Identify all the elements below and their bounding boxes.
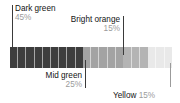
bar-stripe: [123, 47, 131, 68]
callout-percent-bright-orange: 15%: [58, 24, 120, 33]
bar-stripe: [132, 47, 140, 68]
callout-percent-yellow: 15%: [139, 91, 155, 100]
leader-line-yellow: [170, 63, 171, 87]
leader-line-bright-orange: [123, 16, 124, 55]
callout-percent-mid-green: 25%: [37, 80, 82, 89]
bar-segment-yellow[interactable]: [148, 47, 172, 68]
bar-stripe: [10, 47, 18, 68]
callout-dark-green: Dark green 45%: [15, 4, 56, 22]
bar-stripe: [43, 47, 51, 68]
bar-stripe: [35, 47, 43, 68]
bar-stripe: [140, 47, 147, 68]
bar-stripe: [156, 47, 164, 68]
leader-line-mid-green: [85, 60, 86, 88]
callout-label-bright-orange: Bright orange: [58, 15, 120, 24]
bar-stripe: [91, 47, 99, 68]
callout-yellow: Yellow 15%: [113, 84, 167, 102]
bar-stripe: [67, 47, 75, 68]
bar-stripe: [76, 47, 83, 68]
stacked-bar: [10, 47, 172, 68]
leader-line-dark-green: [12, 5, 13, 50]
callout-label-yellow: Yellow: [113, 91, 139, 100]
bar-segment-mid-green[interactable]: [83, 47, 124, 68]
callout-bright-orange: Bright orange 15%: [58, 15, 120, 33]
bar-segment-bright-orange[interactable]: [123, 47, 147, 68]
bar-stripe: [99, 47, 107, 68]
bar-stripe: [51, 47, 59, 68]
callout-label-mid-green: Mid green: [37, 71, 82, 80]
stacked-bar-chart: Dark green 45% Bright orange 15% Mid gre…: [0, 0, 180, 103]
bar-stripe: [108, 47, 116, 68]
callout-mid-green: Mid green 25%: [37, 71, 82, 89]
callout-label-dark-green: Dark green: [15, 4, 56, 13]
bar-stripe: [148, 47, 156, 68]
bar-segment-dark-green[interactable]: [10, 47, 83, 68]
bar-stripe: [59, 47, 67, 68]
bar-stripe: [26, 47, 34, 68]
bar-stripe: [18, 47, 26, 68]
callout-percent-dark-green: 45%: [15, 13, 56, 22]
